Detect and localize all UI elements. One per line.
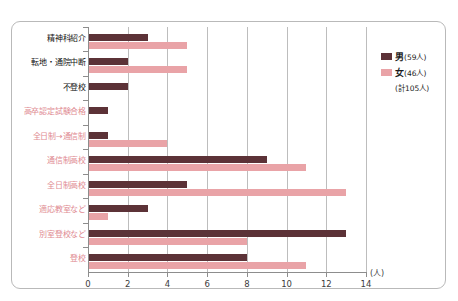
- bar-male-3: [88, 107, 108, 114]
- x-tick-12: [326, 272, 327, 277]
- bar-male-4: [88, 132, 108, 139]
- legend-count-female: (46人): [404, 67, 426, 78]
- y-tick-4: [83, 125, 88, 126]
- bar-male-1: [88, 58, 128, 65]
- x-tick-label-2: 2: [125, 279, 130, 289]
- x-tick-6: [207, 272, 208, 277]
- category-label-7: 適応教室など: [8, 205, 86, 214]
- bar-male-7: [88, 205, 148, 212]
- x-tick-8: [247, 272, 248, 277]
- bar-female-5: [88, 164, 306, 171]
- y-tick-8: [83, 223, 88, 224]
- legend-count-male: (59人): [404, 51, 426, 62]
- x-tick-label-12: 12: [321, 279, 332, 289]
- y-tick-7: [83, 198, 88, 199]
- y-tick-0: [83, 27, 88, 28]
- y-tick-6: [83, 174, 88, 175]
- bar-female-9: [88, 262, 306, 269]
- legend-item-female: 女 (46人): [381, 66, 429, 79]
- y-tick-9: [83, 247, 88, 248]
- x-tick-2: [128, 272, 129, 277]
- x-tick-label-4: 4: [165, 279, 170, 289]
- category-label-8: 別室登校など: [8, 230, 86, 239]
- x-tick-label-0: 0: [85, 279, 90, 289]
- x-tick-4: [167, 272, 168, 277]
- x-axis-line: [88, 272, 366, 273]
- bar-female-4: [88, 140, 167, 147]
- y-tick-2: [83, 76, 88, 77]
- category-label-3: 高卒認定試験合格: [8, 107, 86, 116]
- y-axis-line: [88, 27, 89, 272]
- legend-item-male: 男 (59人): [381, 50, 429, 63]
- x-tick-label-10: 10: [281, 279, 292, 289]
- legend-swatch-male-icon: [381, 53, 392, 60]
- chart-screenshot: 精神科紹介 転地・通院中断 不登校 高卒認定試験合格 全日制→通信制 通信制高校…: [0, 0, 458, 301]
- plot-area: [88, 27, 366, 272]
- bar-female-6: [88, 189, 346, 196]
- category-label-5: 通信制高校: [8, 156, 86, 165]
- category-label-6: 全日制高校: [8, 181, 86, 190]
- category-label-0: 精神科紹介: [8, 34, 86, 43]
- x-tick-label-8: 8: [244, 279, 249, 289]
- legend-swatch-female-icon: [381, 69, 392, 76]
- x-tick-10: [287, 272, 288, 277]
- x-tick-14: [366, 272, 367, 277]
- category-label-2: 不登校: [8, 83, 86, 92]
- bar-male-6: [88, 181, 187, 188]
- bar-male-2: [88, 83, 128, 90]
- y-tick-3: [83, 100, 88, 101]
- category-label-1: 転地・通院中断: [8, 58, 86, 67]
- chart-legend: 男 (59人) 女 (46人) (計105人): [381, 50, 429, 93]
- bar-male-9: [88, 254, 247, 261]
- category-label-9: 登校: [8, 254, 86, 263]
- x-tick-label-14: 14: [361, 279, 372, 289]
- y-tick-1: [83, 51, 88, 52]
- legend-label-female: 女: [395, 66, 404, 79]
- bar-female-0: [88, 42, 187, 49]
- bar-male-5: [88, 156, 267, 163]
- y-tick-5: [83, 149, 88, 150]
- category-axis-labels: 精神科紹介 転地・通院中断 不登校 高卒認定試験合格 全日制→通信制 通信制高校…: [2, 0, 86, 301]
- bar-female-8: [88, 238, 247, 245]
- bar-female-1: [88, 66, 187, 73]
- x-axis-unit-label: (人): [370, 267, 384, 278]
- bar-female-7: [88, 213, 108, 220]
- legend-total-label: (計105人): [395, 82, 429, 93]
- gridline-14: [366, 27, 367, 272]
- x-tick-0: [88, 272, 89, 277]
- bar-male-8: [88, 230, 346, 237]
- bar-male-0: [88, 34, 148, 41]
- x-tick-label-6: 6: [204, 279, 209, 289]
- category-label-4: 全日制→通信制: [8, 132, 86, 141]
- legend-label-male: 男: [395, 50, 404, 63]
